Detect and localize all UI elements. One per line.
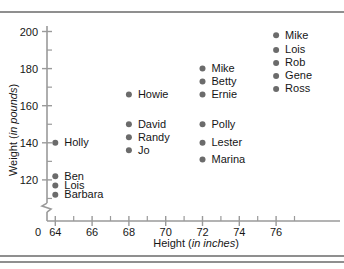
data-point: Barbara bbox=[52, 188, 104, 200]
data-point-label: Betty bbox=[212, 75, 238, 87]
data-point: Polly bbox=[200, 118, 236, 130]
data-point: Mike bbox=[200, 62, 235, 74]
scatter-chart: 1201401601802000 64666870727476 HollyBen… bbox=[0, 12, 344, 254]
data-point: David bbox=[126, 118, 166, 130]
data-point-label: Holly bbox=[64, 136, 89, 148]
data-point-marker bbox=[126, 121, 132, 127]
data-point-label: Marina bbox=[212, 153, 247, 165]
x-axis: 64666870727476 bbox=[47, 216, 340, 238]
data-point-marker bbox=[52, 140, 58, 146]
bottom-divider-rule-1 bbox=[0, 255, 344, 257]
origin-label: 0 bbox=[35, 226, 41, 238]
data-point-marker bbox=[273, 73, 279, 79]
data-point: Jo bbox=[126, 144, 150, 156]
data-point: Holly bbox=[52, 136, 89, 148]
data-point-label: Mike bbox=[212, 62, 235, 74]
x-tick-label: 64 bbox=[49, 226, 61, 238]
data-point: Howie bbox=[126, 88, 169, 100]
y-tick-label: 120 bbox=[20, 174, 38, 186]
data-point-marker bbox=[273, 47, 279, 53]
data-point-label: Lester bbox=[212, 136, 243, 148]
data-point-label: Mike bbox=[285, 29, 308, 41]
data-point-label: Ross bbox=[285, 82, 311, 94]
data-point: Rob bbox=[273, 56, 305, 68]
data-points: HollyBenLoisBarbaraHowieDavidRandyJoMike… bbox=[52, 29, 312, 201]
data-point-marker bbox=[273, 32, 279, 38]
data-point: Gene bbox=[273, 69, 312, 81]
data-point: Lois bbox=[273, 43, 306, 55]
data-point: Randy bbox=[126, 131, 170, 143]
data-point-marker bbox=[200, 140, 206, 146]
data-point-marker bbox=[200, 92, 206, 98]
scatter-plot-figure: 1201401601802000 64666870727476 HollyBen… bbox=[0, 0, 344, 269]
plot-area: 1201401601802000 64666870727476 HollyBen… bbox=[0, 12, 344, 254]
x-tick-label: 68 bbox=[123, 226, 135, 238]
data-point-label: Rob bbox=[285, 56, 305, 68]
data-point-marker bbox=[126, 134, 132, 140]
data-point-label: Barbara bbox=[64, 188, 104, 200]
data-point-label: Randy bbox=[138, 131, 170, 143]
y-tick-label: 180 bbox=[20, 63, 38, 75]
data-point-marker bbox=[126, 92, 132, 98]
data-point-marker bbox=[200, 156, 206, 162]
data-point-label: Polly bbox=[212, 118, 236, 130]
data-point-label: David bbox=[138, 118, 166, 130]
data-point-label: Ernie bbox=[212, 88, 238, 100]
bottom-divider-rule-2 bbox=[0, 261, 344, 263]
data-point: Ernie bbox=[200, 88, 238, 100]
y-tick-label: 160 bbox=[20, 100, 38, 112]
x-tick-label: 76 bbox=[270, 226, 282, 238]
data-point: Lester bbox=[200, 136, 243, 148]
data-point-marker bbox=[200, 79, 206, 85]
data-point: Betty bbox=[200, 75, 238, 87]
data-point: Marina bbox=[200, 153, 247, 165]
x-axis-title: Height (in inches) bbox=[153, 237, 239, 249]
data-point-marker bbox=[273, 60, 279, 66]
data-point: Mike bbox=[273, 29, 308, 41]
y-tick-label: 140 bbox=[20, 137, 38, 149]
data-point-marker bbox=[273, 86, 279, 92]
data-point-marker bbox=[52, 192, 58, 198]
data-point-marker bbox=[200, 66, 206, 72]
data-point-marker bbox=[52, 173, 58, 179]
data-point: Ross bbox=[273, 82, 311, 94]
data-point-marker bbox=[126, 147, 132, 153]
y-axis: 1201401601802000 bbox=[20, 26, 52, 239]
data-point-label: Howie bbox=[138, 88, 169, 100]
y-axis-title: Weight (in pounds) bbox=[7, 84, 19, 176]
y-tick-label: 200 bbox=[20, 26, 38, 38]
data-point-label: Gene bbox=[285, 69, 312, 81]
data-point-label: Jo bbox=[138, 144, 150, 156]
x-tick-label: 66 bbox=[86, 226, 98, 238]
data-point-label: Lois bbox=[285, 43, 306, 55]
data-point-marker bbox=[52, 182, 58, 188]
data-point-marker bbox=[200, 121, 206, 127]
